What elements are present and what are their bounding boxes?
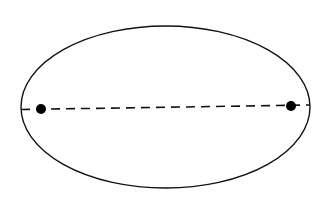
major-axis-dashed-line bbox=[21, 105, 310, 110]
ellipse-outline bbox=[21, 26, 310, 188]
focus-point-right bbox=[286, 101, 296, 111]
ellipse-diagram bbox=[0, 0, 326, 202]
focus-point-left bbox=[36, 104, 46, 114]
